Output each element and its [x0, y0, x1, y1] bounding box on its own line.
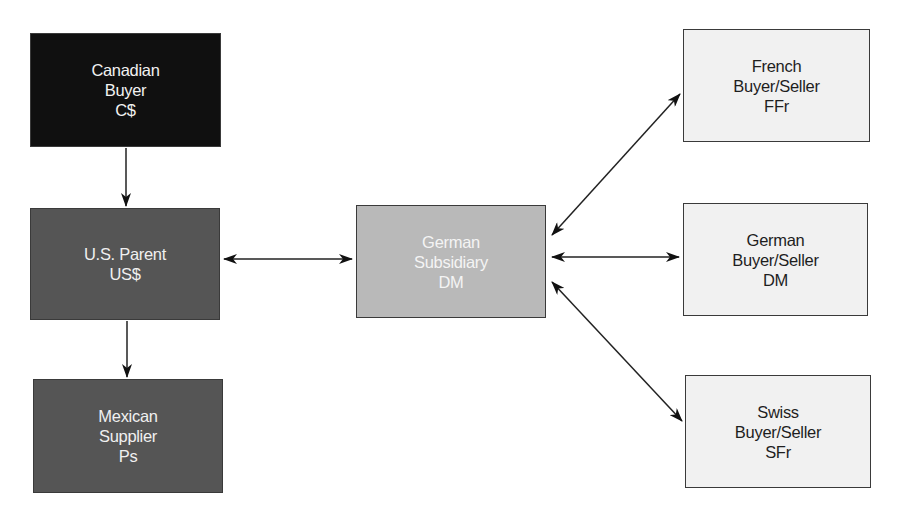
- node-label-line: Buyer/Seller: [732, 250, 818, 270]
- node-label-line: C$: [115, 100, 136, 120]
- node-label-line: DM: [763, 270, 788, 290]
- node-mexican-supplier: Mexican Supplier Ps: [33, 379, 223, 493]
- node-swiss-buyer-seller: Swiss Buyer/Seller SFr: [685, 375, 871, 488]
- node-label-line: Mexican: [98, 406, 157, 426]
- node-label-line: U.S. Parent: [84, 244, 166, 264]
- node-us-parent: U.S. Parent US$: [30, 208, 220, 320]
- node-label-line: Buyer/Seller: [735, 422, 821, 442]
- node-label-line: DM: [438, 272, 463, 292]
- arrow-subsidiary-swiss: [552, 282, 682, 421]
- node-label-line: Ps: [119, 446, 138, 466]
- arrow-subsidiary-french: [552, 94, 680, 235]
- node-german-subsidiary: German Subsidiary DM: [356, 205, 546, 318]
- node-label-line: French: [752, 56, 802, 76]
- node-label-line: Swiss: [757, 402, 799, 422]
- node-label-line: SFr: [765, 442, 791, 462]
- node-label-line: US$: [109, 264, 140, 284]
- node-label-line: Supplier: [99, 426, 157, 446]
- node-label-line: Canadian: [91, 60, 159, 80]
- node-label-line: German: [747, 230, 805, 250]
- node-french-buyer-seller: French Buyer/Seller FFr: [683, 29, 870, 142]
- node-label-line: German: [422, 232, 480, 252]
- node-label-line: FFr: [764, 96, 789, 116]
- node-label-line: Buyer/Seller: [733, 76, 819, 96]
- node-german-buyer-seller: German Buyer/Seller DM: [683, 203, 868, 316]
- node-canadian-buyer: Canadian Buyer C$: [30, 33, 221, 147]
- node-label-line: Buyer: [105, 80, 147, 100]
- node-label-line: Subsidiary: [414, 252, 488, 272]
